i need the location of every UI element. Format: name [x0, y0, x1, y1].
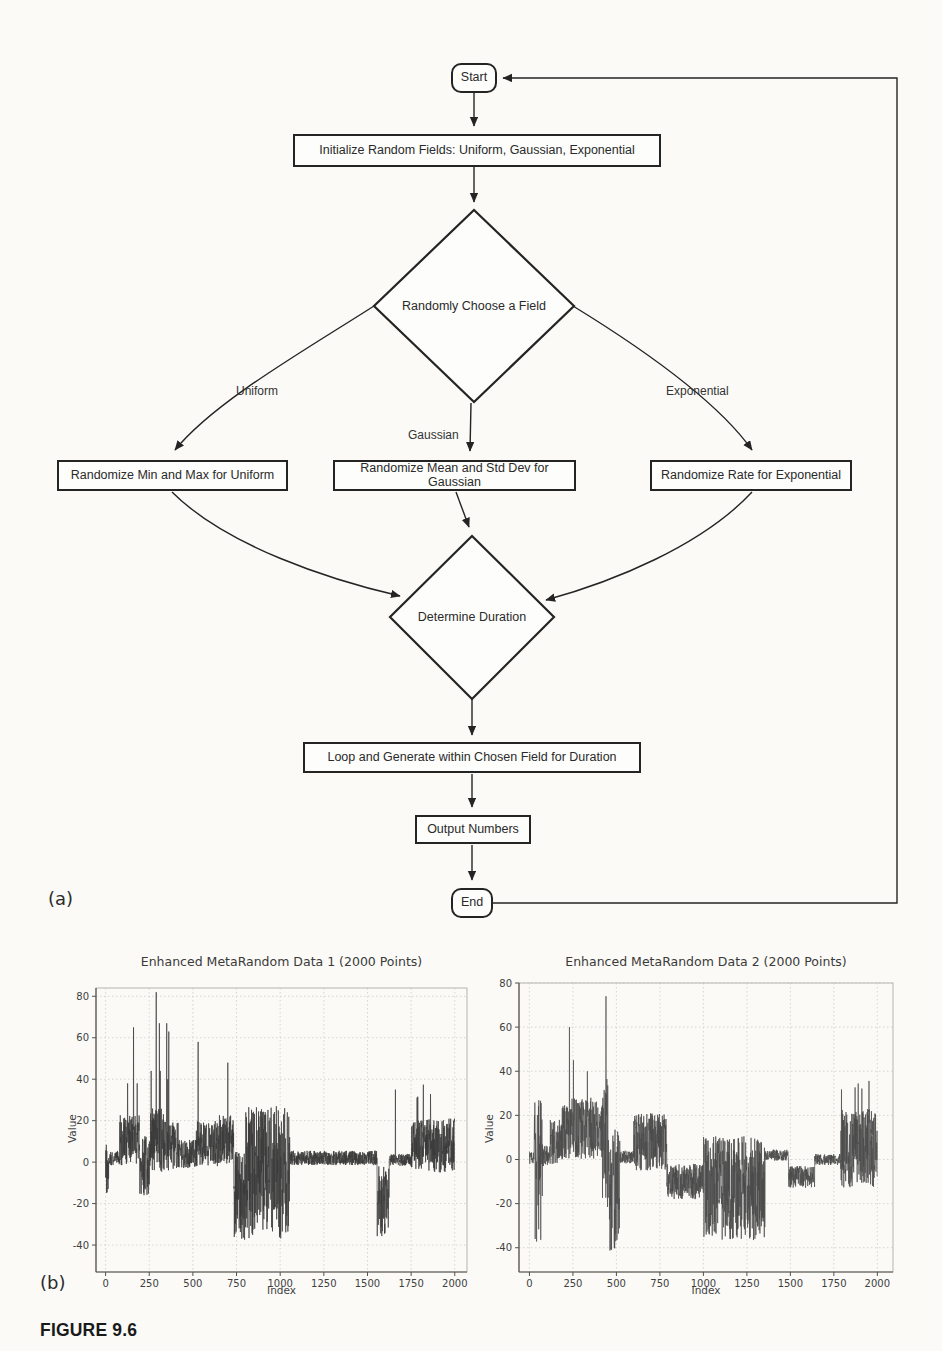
svg-text:60: 60	[499, 1022, 512, 1033]
svg-text:20: 20	[76, 1115, 89, 1126]
chart-data1-title: Enhanced MetaRandom Data 1 (2000 Points)	[96, 954, 467, 969]
start-node-label: Start	[461, 71, 487, 85]
chart-data2-plot: 025050075010001250150017502000-40-200204…	[483, 948, 917, 1300]
chart-data1-ylabel: Value	[66, 1114, 78, 1143]
randomize-gaussian-node: Randomize Mean and Std Dev for Gaussian	[333, 460, 576, 491]
svg-text:40: 40	[499, 1066, 512, 1077]
svg-text:-40: -40	[73, 1240, 89, 1251]
loop-generate-node: Loop and Generate within Chosen Field fo…	[303, 742, 641, 773]
figure-caption: FIGURE 9.6	[40, 1320, 137, 1341]
edge-label-uniform: Uniform	[236, 384, 278, 398]
svg-text:80: 80	[76, 991, 89, 1002]
chart-data2-title: Enhanced MetaRandom Data 2 (2000 Points)	[519, 954, 893, 969]
svg-text:80: 80	[499, 978, 512, 989]
chart-data1-plot: 025050075010001250150017502000-40-200204…	[58, 948, 492, 1300]
initialize-fields-node: Initialize Random Fields: Uniform, Gauss…	[293, 134, 661, 167]
svg-text:-40: -40	[496, 1242, 512, 1253]
chart-data1-xlabel: Index	[96, 1284, 467, 1296]
flowchart-panel: Start Initialize Random Fields: Uniform,…	[0, 0, 942, 945]
chart-data2-xlabel: Index	[519, 1284, 893, 1296]
panel-b-label: (b)	[40, 1272, 65, 1293]
chart-data2: 025050075010001250150017502000-40-200204…	[483, 948, 917, 1300]
edge-uniform-duration	[172, 492, 400, 596]
svg-text:0: 0	[83, 1157, 89, 1168]
end-node: End	[451, 888, 493, 918]
edge-choose-gaussian	[470, 403, 471, 451]
randomize-exponential-node: Randomize Rate for Exponential	[650, 460, 852, 491]
choose-field-label: Randomly Choose a Field	[384, 294, 564, 318]
edge-choose-exponential	[573, 306, 752, 450]
svg-text:-20: -20	[496, 1198, 512, 1209]
initialize-fields-label: Initialize Random Fields: Uniform, Gauss…	[319, 144, 634, 158]
chart-data1: 025050075010001250150017502000-40-200204…	[58, 948, 492, 1300]
edge-gaussian-duration	[456, 492, 469, 527]
edge-choose-uniform	[175, 306, 374, 450]
svg-text:0: 0	[506, 1154, 512, 1165]
edge-label-exponential: Exponential	[666, 384, 729, 398]
chart-data2-ylabel: Value	[483, 1114, 495, 1143]
svg-text:60: 60	[76, 1032, 89, 1043]
end-node-label: End	[461, 896, 483, 910]
randomize-uniform-node: Randomize Min and Max for Uniform	[57, 460, 288, 491]
svg-text:40: 40	[76, 1074, 89, 1085]
scanned-figure-page: Start Initialize Random Fields: Uniform,…	[0, 0, 942, 1351]
svg-text:20: 20	[499, 1110, 512, 1121]
panel-a-label: (a)	[48, 888, 73, 909]
determine-duration-label: Determine Duration	[392, 605, 552, 629]
edge-label-gaussian: Gaussian	[408, 428, 459, 442]
start-node: Start	[451, 63, 497, 93]
svg-text:-20: -20	[73, 1198, 89, 1209]
edge-exponential-duration	[546, 492, 752, 600]
output-numbers-node: Output Numbers	[415, 815, 531, 844]
